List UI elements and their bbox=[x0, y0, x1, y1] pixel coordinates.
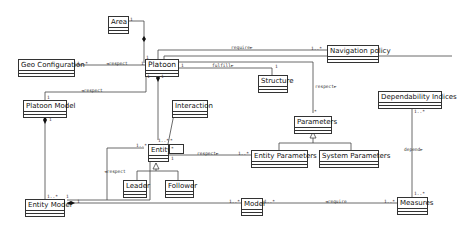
class-name: Dependability Indices bbox=[379, 92, 441, 103]
mult-platoon-top: 1 bbox=[146, 55, 149, 60]
class-navigation-policy[interactable]: Navigation policy bbox=[327, 45, 379, 63]
class-name: System Parameters bbox=[320, 151, 378, 162]
mult-platoon-right: 1 bbox=[181, 63, 184, 68]
class-name: Entity Model bbox=[26, 200, 64, 211]
class-name: Measures bbox=[398, 198, 427, 209]
class-system-parameters[interactable]: System Parameters bbox=[319, 150, 379, 168]
mult-entity-model-1: 1 bbox=[66, 194, 69, 199]
relation-label-platoon-model-respect: ◄respect bbox=[81, 88, 103, 93]
class-name: Entity bbox=[149, 145, 168, 156]
mult-model-left: 1..* bbox=[229, 199, 240, 204]
mult-measures-top: 1..* bbox=[414, 191, 425, 196]
relation-label-fulfill: fulfill► bbox=[212, 63, 234, 68]
class-model[interactable]: Model bbox=[241, 198, 263, 216]
class-measures[interactable]: Measures bbox=[397, 197, 428, 215]
class-dependability-indices[interactable]: Dependability Indices bbox=[378, 91, 442, 109]
class-name: Interaction bbox=[173, 101, 207, 112]
relation-label-measures-require: ◄require bbox=[325, 199, 347, 204]
class-structure[interactable]: Structure bbox=[258, 75, 288, 93]
relation-label-entity-params-respect: respect► bbox=[197, 151, 219, 156]
class-area[interactable]: Area bbox=[108, 16, 129, 34]
class-entity-parameters[interactable]: Entity Parameters bbox=[251, 150, 308, 168]
mult-nav: 1..* bbox=[311, 46, 322, 51]
mult-params: * bbox=[314, 109, 317, 114]
relation-label-require-nav: require► bbox=[231, 45, 253, 50]
class-interaction[interactable]: Interaction bbox=[172, 100, 208, 118]
class-name: Area bbox=[109, 17, 128, 28]
class-geo-configuration[interactable]: Geo Configuration bbox=[18, 59, 75, 77]
class-name: Model bbox=[242, 199, 262, 210]
class-name: Structure bbox=[259, 76, 287, 87]
mult-measures-left: 1..* bbox=[384, 199, 395, 204]
mult-entity-top: 1..* bbox=[158, 138, 169, 143]
mult-platoon-model-bottom: 1 bbox=[49, 117, 52, 122]
mult-interaction: * bbox=[171, 146, 174, 151]
mult-model-right: 1..* bbox=[264, 199, 275, 204]
relation-label-platoon-params-respect: respect► bbox=[315, 84, 337, 89]
mult-structure: 1 bbox=[275, 64, 278, 69]
class-entity[interactable]: Entity bbox=[148, 144, 169, 162]
class-name: Platoon Model bbox=[24, 101, 66, 112]
mult-platoon-bottom: 1 bbox=[147, 74, 150, 79]
mult-entity-top-star: * bbox=[170, 138, 173, 143]
class-entity-model[interactable]: Entity Model bbox=[25, 199, 65, 217]
mult-entity-model-right: 1 bbox=[77, 199, 80, 204]
class-name: Entity Parameters bbox=[252, 151, 307, 162]
mult-platoon-bottom-b: 1 bbox=[161, 74, 164, 79]
class-name: Parameters bbox=[295, 117, 331, 128]
class-name: Follower bbox=[166, 181, 193, 192]
class-name: Platoon bbox=[146, 60, 178, 71]
mult-entity-right: 1 bbox=[171, 156, 174, 161]
mult-entity-model: 1..* bbox=[47, 194, 58, 199]
diagram-edges bbox=[0, 0, 464, 230]
class-platoon-model[interactable]: Platoon Model bbox=[23, 100, 67, 118]
mult-area: 1 bbox=[130, 17, 133, 22]
class-name: Leader bbox=[124, 181, 146, 192]
class-name: Navigation policy bbox=[328, 46, 378, 57]
relation-label-entity-model-respect: ◄respect bbox=[104, 169, 126, 174]
class-parameters[interactable]: Parameters bbox=[294, 116, 332, 134]
relation-label-depend: depend► bbox=[404, 147, 423, 152]
mult-dependability: 1..* bbox=[414, 109, 425, 114]
mult-platoon-model: 1 bbox=[47, 95, 50, 100]
relation-label-geo-respect: ◄respect bbox=[106, 61, 128, 66]
class-name: Geo Configuration bbox=[19, 60, 74, 71]
mult-geo: 1..* bbox=[77, 61, 88, 66]
class-leader[interactable]: Leader bbox=[123, 180, 147, 198]
class-follower[interactable]: Follower bbox=[165, 180, 194, 198]
mult-entity-left: 1..* bbox=[136, 143, 147, 148]
mult-platoon-geo: 1 bbox=[141, 61, 144, 66]
mult-entity-params: 1..* bbox=[238, 151, 249, 156]
